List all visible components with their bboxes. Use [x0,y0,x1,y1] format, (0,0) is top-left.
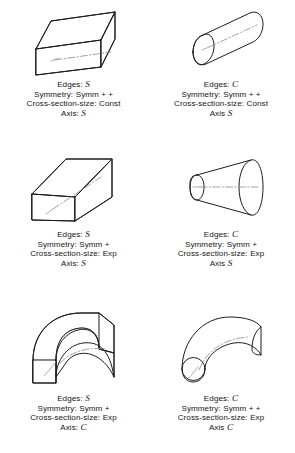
caption-line-edges: Edges:C [147,80,295,90]
symmetry-value: Symm + [79,404,109,413]
tapered-box-drawing [0,152,147,228]
cross-section-value: Const [247,99,268,108]
symmetry-value: Symm + [227,240,257,249]
axis-value: S [81,258,86,268]
cross-section-label: Cross-section-size: [178,413,248,422]
expanding-prism-icon [15,153,133,227]
symmetry-label: Symmetry: [181,404,220,413]
symmetry-label: Symmetry: [34,90,73,99]
caption-line-symmetry: Symmetry:Symm + [0,404,147,414]
curved-box-caption: Edges:S Symmetry:Symm + Cross-section-si… [0,394,147,432]
edges-value: C [232,229,238,239]
edges-label: Edges: [204,230,230,239]
axis-value: C [227,422,233,432]
symmetry-value: Symm + + [223,404,260,413]
edges-label: Edges: [57,394,83,403]
axis-value: C [81,422,87,432]
straight-cylinder-drawing [147,2,295,78]
caption-line-cross-section: Cross-section-size:Exp [0,249,147,259]
axis-label: Axis: [61,109,79,118]
cone-frustum-drawing [147,152,295,228]
curved-tube-caption: Edges:C Symmetry:Symm + + Cross-section-… [147,394,295,432]
axis-value: S [228,258,233,268]
symmetry-value: Symm + + [223,90,260,99]
straight-box-caption: Edges:S Symmetry:Symm + + Cross-section-… [0,80,147,118]
edges-label: Edges: [57,80,83,89]
truncated-cone-icon [162,153,280,227]
cross-section-label: Cross-section-size: [30,413,100,422]
axis-label: Axis: [60,423,78,432]
symmetry-label: Symmetry: [185,240,224,249]
edges-value: C [232,79,238,89]
axis-label: Axis: [61,259,79,268]
caption-line-symmetry: Symmetry:Symm + + [147,90,295,100]
caption-line-edges: Edges:C [147,394,295,404]
cross-section-value: Exp [250,249,264,258]
caption-line-axis: Axis:C [0,423,147,433]
caption-line-symmetry: Symmetry:Symm + [147,240,295,250]
caption-line-axis: AxisS [147,109,295,119]
symmetry-label: Symmetry: [181,90,220,99]
shape-cell-curved-box: Edges:S Symmetry:Symm + Cross-section-si… [0,300,147,453]
cone-frustum-caption: Edges:C Symmetry:Symm + Cross-section-si… [147,230,295,268]
geon-figure-grid: Edges:S Symmetry:Symm + + Cross-section-… [0,0,295,453]
symmetry-value: Symm + + [76,90,113,99]
edges-label: Edges: [204,80,230,89]
edges-value: C [232,393,238,403]
cross-section-value: Exp [250,413,264,422]
straight-cylinder-caption: Edges:C Symmetry:Symm + + Cross-section-… [147,80,295,118]
shape-cell-straight-box: Edges:S Symmetry:Symm + + Cross-section-… [0,0,147,150]
bent-cylinder-icon [162,305,280,391]
symmetry-value: Symm + [79,240,109,249]
rectangular-prism-icon [15,3,133,77]
caption-line-edges: Edges:S [0,230,147,240]
shape-cell-cone-frustum: Edges:C Symmetry:Symm + Cross-section-si… [147,150,295,300]
caption-line-edges: Edges:S [0,80,147,90]
axis-value: S [81,108,86,118]
shape-cell-straight-cylinder: Edges:C Symmetry:Symm + + Cross-section-… [147,0,295,150]
caption-line-axis: AxisC [147,423,295,433]
caption-line-edges: Edges:C [147,230,295,240]
caption-line-axis: Axis:S [0,109,147,119]
caption-line-cross-section: Cross-section-size:Exp [147,249,295,259]
curved-box-drawing [0,304,147,392]
cross-section-label: Cross-section-size: [30,249,100,258]
caption-line-symmetry: Symmetry:Symm + + [147,404,295,414]
bent-prism-icon [15,305,133,391]
edges-value: S [85,79,90,89]
edges-value: S [85,229,90,239]
straight-box-drawing [0,2,147,78]
caption-line-cross-section: Cross-section-size:Exp [0,413,147,423]
axis-label: Axis [209,423,225,432]
axis-label: Axis [210,259,226,268]
axis-label: Axis [210,109,226,118]
caption-line-axis: AxisS [147,259,295,269]
shape-cell-tapered-box: Edges:S Symmetry:Symm + Cross-section-si… [0,150,147,300]
cross-section-value: Exp [103,249,117,258]
cross-section-label: Cross-section-size: [174,99,244,108]
caption-line-axis: Axis:S [0,259,147,269]
caption-line-symmetry: Symmetry:Symm + [0,240,147,250]
cross-section-label: Cross-section-size: [178,249,248,258]
caption-line-symmetry: Symmetry:Symm + + [0,90,147,100]
edges-label: Edges: [57,230,83,239]
edges-value: S [85,393,90,403]
symmetry-label: Symmetry: [38,240,77,249]
tapered-box-caption: Edges:S Symmetry:Symm + Cross-section-si… [0,230,147,268]
edges-label: Edges: [204,394,230,403]
shape-cell-curved-tube: Edges:C Symmetry:Symm + + Cross-section-… [147,300,295,453]
curved-tube-drawing [147,304,295,392]
caption-line-cross-section: Cross-section-size:Const [0,99,147,109]
cross-section-value: Const [99,99,120,108]
cross-section-value: Exp [103,413,117,422]
caption-line-cross-section: Cross-section-size:Exp [147,413,295,423]
symmetry-label: Symmetry: [38,404,77,413]
caption-line-edges: Edges:S [0,394,147,404]
cylinder-icon [162,3,280,77]
caption-line-cross-section: Cross-section-size:Const [147,99,295,109]
axis-value: S [228,108,233,118]
cross-section-label: Cross-section-size: [27,99,97,108]
